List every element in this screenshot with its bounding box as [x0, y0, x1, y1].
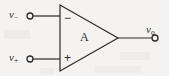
inverting-input-label: v−	[9, 9, 18, 21]
noninverting-input-terminal[interactable]	[27, 56, 33, 62]
output-label: vo	[146, 24, 155, 36]
gain-label: A	[80, 30, 89, 45]
plus-sign-icon: +	[64, 52, 71, 64]
opamp-diagram: v− v+ vo A − +	[0, 0, 169, 76]
inverting-input-terminal[interactable]	[27, 13, 33, 19]
minus-sign-icon: −	[64, 12, 71, 24]
noninverting-input-label: v+	[9, 52, 18, 64]
